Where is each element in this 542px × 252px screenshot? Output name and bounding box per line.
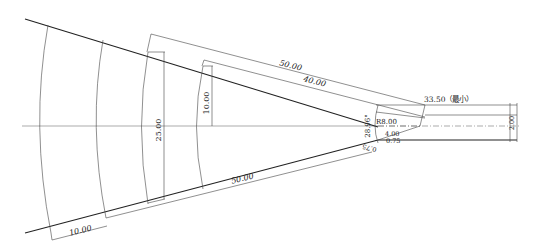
cone-bottom-edge [25,140,378,233]
dim-40-label: 40.00 [301,74,326,89]
radius-label: R8.00 [376,118,397,126]
dim-50-bottom-label: 50.00 [230,171,254,185]
offset-a-label: 0.75 [361,142,377,153]
dim-10-label: 10.00 [202,92,211,115]
min-length-label: 33.50（最小） [424,95,473,104]
offset-b-label: 0.75 [386,137,400,145]
tip-end [420,105,425,126]
arc-1 [40,25,51,233]
dim-50-top-ext [147,34,151,52]
dim-40-line [204,60,425,117]
dim-10-bottom-ext [51,233,52,240]
right-height-label: 2.00 [508,116,516,130]
dim-50-top-label: 50.00 [278,58,302,72]
dim-10-bottom-label: 10.00 [68,223,92,237]
arc-4 [197,66,204,189]
drawing-canvas: 25.00 10.00 50.00 40.00 50.00 10.00 28.9… [0,0,542,252]
dim-50-bottom-line [106,152,372,218]
arc-3 [142,52,149,204]
dim-40-ext [202,60,204,66]
angle-label: 28.96° [364,114,372,138]
dim-25-label: 25.00 [154,119,163,142]
arc-2 [96,40,106,218]
